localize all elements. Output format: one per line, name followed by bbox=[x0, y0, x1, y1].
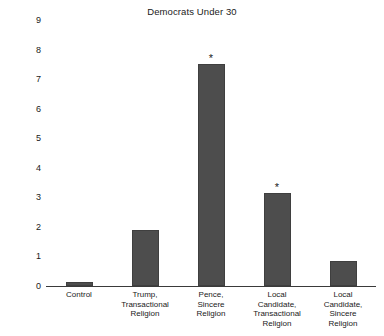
bar[interactable] bbox=[330, 261, 357, 286]
x-category-label-line: Candidate, bbox=[310, 300, 376, 310]
y-tick-label: 2 bbox=[36, 222, 41, 231]
y-tick-label: 7 bbox=[36, 75, 41, 84]
x-category-label-line: Pence, bbox=[178, 290, 244, 300]
x-category-label-line: Religion bbox=[178, 309, 244, 319]
x-category-label-line: Religion bbox=[310, 319, 376, 329]
x-axis-line bbox=[46, 286, 376, 287]
x-category-label-line: Sincere bbox=[310, 309, 376, 319]
x-category-label-line: Candidate, bbox=[244, 300, 310, 310]
y-tick-label: 0 bbox=[36, 282, 41, 291]
x-category-label: LocalCandidate,TransactionalReligion bbox=[244, 290, 310, 328]
bar[interactable] bbox=[132, 230, 159, 286]
x-category-label-line: Transactional bbox=[244, 309, 310, 319]
y-tick-label: 8 bbox=[36, 45, 41, 54]
y-tick-label: 3 bbox=[36, 193, 41, 202]
bar[interactable] bbox=[198, 64, 225, 286]
chart-title: Democrats Under 30 bbox=[0, 6, 384, 17]
plot-area: 0123456789** bbox=[46, 20, 376, 286]
x-category-label-line: Religion bbox=[244, 319, 310, 329]
y-tick-label: 9 bbox=[36, 16, 41, 25]
x-category-label-line: Trump, bbox=[112, 290, 178, 300]
x-category-label-line: Transactional bbox=[112, 300, 178, 310]
bar-chart: Democrats Under 30 Increase in Percentag… bbox=[0, 0, 384, 336]
x-category-label: LocalCandidate,SincereReligion bbox=[310, 290, 376, 328]
y-tick-label: 5 bbox=[36, 134, 41, 143]
bar[interactable] bbox=[66, 282, 93, 286]
x-category-label-line: Religion bbox=[112, 309, 178, 319]
y-tick-label: 1 bbox=[36, 252, 41, 261]
significance-marker: * bbox=[201, 55, 221, 61]
x-category-label-line: Control bbox=[46, 290, 112, 300]
x-category-label: Trump,TransactionalReligion bbox=[112, 290, 178, 319]
y-tick-label: 4 bbox=[36, 163, 41, 172]
x-category-label-line: Local bbox=[310, 290, 376, 300]
y-tick-label: 6 bbox=[36, 104, 41, 113]
x-category-label-line: Local bbox=[244, 290, 310, 300]
x-category-label-line: Sincere bbox=[178, 300, 244, 310]
x-category-label: Control bbox=[46, 290, 112, 300]
significance-marker: * bbox=[267, 184, 287, 190]
bar[interactable] bbox=[264, 193, 291, 286]
x-category-label: Pence,SincereReligion bbox=[178, 290, 244, 319]
